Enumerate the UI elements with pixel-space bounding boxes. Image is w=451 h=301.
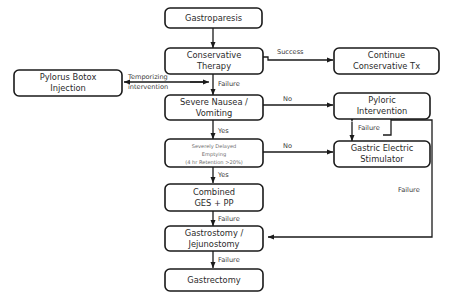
node-gastric-electric-stimulator-label-1: Gastric Electric	[351, 143, 414, 153]
edge-label-failure-right: Failure	[398, 186, 420, 194]
edge-label-temporizing-line1: Temporizing	[127, 73, 168, 81]
node-gastrectomy-label: Gastrectomy	[187, 275, 240, 285]
node-severe-nausea[interactable]: Severe Nausea / Vomiting	[165, 95, 263, 120]
node-gastrectomy[interactable]: Gastrectomy	[165, 269, 263, 291]
edge-label-yes-nausea: Yes	[217, 127, 229, 135]
flowchart-canvas: Gastroparesis Conservative Therapy Conti…	[0, 0, 451, 301]
node-gastroparesis-label: Gastroparesis	[185, 13, 242, 23]
edge-label-no-emptying: No	[283, 142, 292, 150]
node-gastric-electric-stimulator[interactable]: Gastric Electric Stimulator	[334, 141, 430, 167]
node-pyloric-intervention[interactable]: Pyloric Intervention	[334, 93, 430, 119]
node-conservative-therapy-label-1: Conservative	[187, 50, 242, 60]
edge-label-temporizing-line2: intervention	[128, 83, 168, 91]
edge-conservative-to-continue	[263, 57, 333, 60]
node-pylorus-botox-label-1: Pylorus Botox	[40, 72, 97, 82]
edge-label-success: Success	[277, 48, 304, 56]
edge-label-failure-combined: Failure	[218, 215, 240, 223]
node-continue-conservative-label-2: Conservative Tx	[353, 61, 420, 71]
node-gastrostomy-jejunostomy-label-1: Gastrostomy /	[185, 228, 244, 238]
node-severely-delayed-emptying-label-2: Emptying	[202, 151, 226, 158]
edge-label-failure-pyloric-ges: Failure	[358, 124, 380, 132]
node-combined-ges-pp[interactable]: Combined GES + PP	[165, 184, 263, 211]
node-combined-ges-pp-label-1: Combined	[193, 187, 235, 197]
node-conservative-therapy-label-2: Therapy	[196, 61, 231, 71]
node-severely-delayed-emptying-label-1: Severely Delayed	[192, 143, 237, 150]
node-severely-delayed-emptying[interactable]: Severely Delayed Emptying (4 hr Retentio…	[165, 139, 263, 167]
edge-label-no-nausea: No	[283, 95, 292, 103]
node-pyloric-intervention-label-1: Pyloric	[368, 95, 396, 105]
flowchart-figure: Gastroparesis Conservative Therapy Conti…	[0, 0, 451, 301]
node-pylorus-botox[interactable]: Pylorus Botox Injection	[14, 70, 122, 96]
node-severe-nausea-label-1: Severe Nausea /	[180, 97, 248, 107]
node-gastric-electric-stimulator-label-2: Stimulator	[360, 154, 404, 164]
node-combined-ges-pp-label-2: GES + PP	[194, 198, 233, 208]
node-gastrostomy-jejunostomy[interactable]: Gastrostomy / Jejunostomy	[165, 226, 263, 251]
node-pyloric-intervention-label-2: Intervention	[357, 106, 408, 116]
node-continue-conservative[interactable]: Continue Conservative Tx	[334, 48, 439, 74]
node-conservative-therapy[interactable]: Conservative Therapy	[165, 48, 263, 74]
edge-label-yes-emptying: Yes	[217, 171, 229, 179]
node-gastroparesis[interactable]: Gastroparesis	[165, 8, 262, 28]
edge-label-failure-gastrostomy: Failure	[218, 256, 240, 264]
node-severely-delayed-emptying-label-3: (4 hr Retention >20%)	[185, 159, 243, 165]
node-continue-conservative-label-1: Continue	[368, 50, 405, 60]
node-pylorus-botox-label-2: Injection	[50, 83, 86, 93]
edge-right-failure-to-gastrostomy	[268, 120, 432, 237]
node-severe-nausea-label-2: Vomiting	[196, 108, 233, 118]
node-gastrostomy-jejunostomy-label-2: Jejunostomy	[187, 239, 239, 249]
edge-label-failure-conservative: Failure	[218, 80, 240, 88]
